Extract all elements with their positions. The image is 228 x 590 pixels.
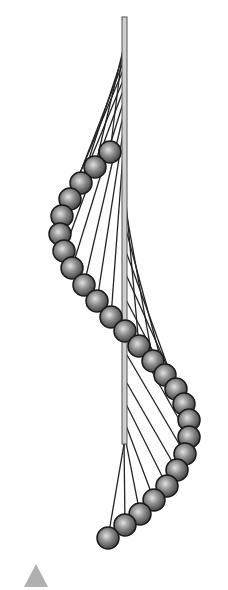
pendulum-string — [124, 420, 154, 500]
pendulum-wave-diagram — [0, 0, 228, 590]
support-rod — [122, 17, 127, 444]
play-triangle-button[interactable] — [23, 563, 49, 588]
pendulum-bob — [97, 527, 119, 549]
play-icon — [24, 564, 48, 587]
pendulum-string — [124, 440, 125, 525]
